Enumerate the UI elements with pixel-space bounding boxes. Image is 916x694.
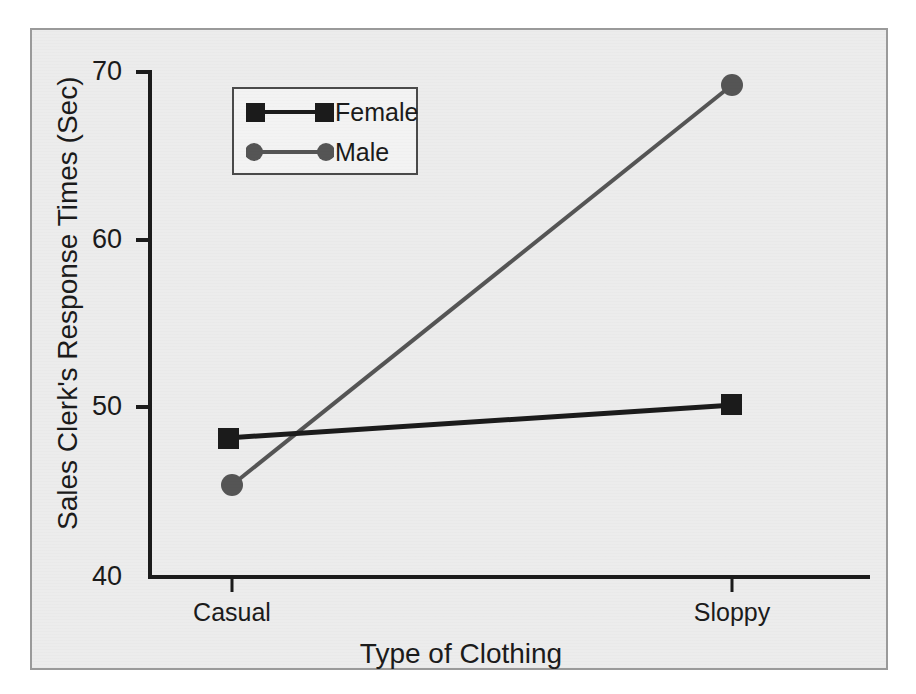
plot-canvas <box>32 30 890 672</box>
x-tick-label-casual: Casual <box>152 600 312 625</box>
square-marker <box>246 102 334 122</box>
legend-item-male: Male <box>234 137 416 167</box>
data-point-female-casual <box>218 428 239 449</box>
series-line-female <box>227 405 734 438</box>
x-tick-label-sloppy: Sloppy <box>652 600 812 625</box>
data-point-male-sloppy <box>721 74 743 96</box>
x-axis-title: Type of Clothing <box>211 640 711 668</box>
chart-plate: 70 60 50 40 Sales Clerk's Response Times… <box>30 28 888 670</box>
legend-label-male: Male <box>335 138 389 167</box>
legend-item-female: Female <box>234 97 416 127</box>
y-axis-title: Sales Clerk's Response Times (Sec) <box>54 77 82 531</box>
circle-marker <box>246 142 334 162</box>
legend-label-female: Female <box>335 98 418 127</box>
data-point-female-sloppy <box>721 394 742 415</box>
y-tick-label-40: 40 <box>64 563 122 590</box>
chart-figure: 70 60 50 40 Sales Clerk's Response Times… <box>0 0 916 694</box>
data-point-male-casual <box>221 474 243 496</box>
chart-legend: Female Male <box>232 87 418 175</box>
